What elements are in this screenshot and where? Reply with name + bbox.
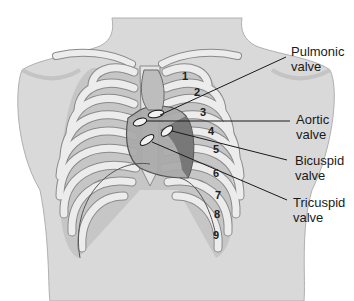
pulmonic-label-line1: Pulmonic	[291, 44, 344, 59]
pulmonic-label-line2: valve	[291, 59, 344, 74]
pulmonic-valve-label: Pulmonic valve	[291, 44, 344, 74]
interspace-number-4: 4	[208, 125, 214, 137]
aortic-label-line1: Aortic	[296, 112, 329, 127]
great-vessels	[141, 70, 164, 110]
tricuspid-valve-label: Tricuspid valve	[293, 195, 345, 225]
aortic-label-line2: valve	[296, 127, 329, 142]
aortic-valve-label: Aortic valve	[296, 112, 329, 142]
chest-valve-diagram: 1 2 3 4 5 6 7 8 9 Pulmonic valve Aortic …	[0, 0, 354, 301]
tricuspid-label-line1: Tricuspid	[293, 195, 345, 210]
interspace-number-9: 9	[213, 229, 219, 241]
interspace-number-3: 3	[200, 106, 206, 118]
interspace-number-8: 8	[214, 208, 220, 220]
bicuspid-label-line2: valve	[295, 168, 344, 183]
tricuspid-label-line2: valve	[293, 210, 345, 225]
interspace-number-1: 1	[182, 70, 188, 82]
interspace-number-6: 6	[213, 167, 219, 179]
interspace-number-7: 7	[215, 189, 221, 201]
interspace-number-5: 5	[213, 143, 219, 155]
interspace-number-2: 2	[194, 86, 200, 98]
bicuspid-valve-label: Bicuspid valve	[295, 153, 344, 183]
bicuspid-label-line1: Bicuspid	[295, 153, 344, 168]
